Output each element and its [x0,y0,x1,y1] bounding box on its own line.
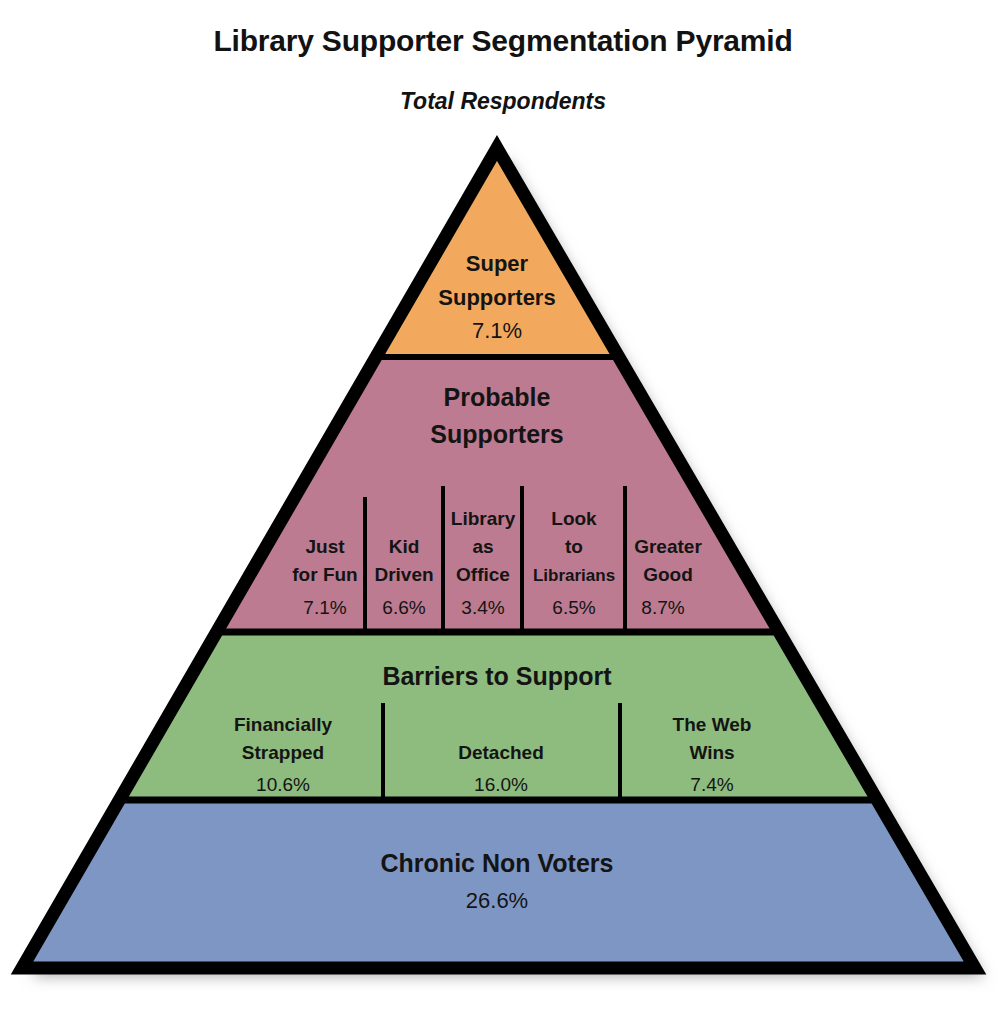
segment-kid-driven-label-line2: Driven [374,564,433,585]
segment-look-to-librarians-label-line2: to [565,536,583,557]
tier-super-supporters-value: 7.1% [472,318,522,343]
tier-barriers-to-support-label: Barriers to Support [382,662,612,690]
segment-library-as-office-value: 3.4% [461,597,504,618]
segment-financially-strapped-label-line2: Strapped [242,742,324,763]
tier-super-supporters-label-line2: Supporters [438,285,555,310]
segment-the-web-wins-value: 7.4% [690,774,733,795]
segment-kid-driven-value: 6.6% [382,597,425,618]
tier-super-supporters-label-line1: Super [466,251,529,276]
tier-probable-supporters-label-line2: Supporters [430,420,563,448]
segment-the-web-wins-label-line2: Wins [689,742,734,763]
segment-financially-strapped-value: 10.6% [256,774,310,795]
segment-greater-good-label-line1: Greater [634,536,702,557]
segment-greater-good-label-line2: Good [643,564,693,585]
segment-library-as-office-label-line2: as [472,536,493,557]
segmentation-pyramid: Super Supporters 7.1% Probable Supporter… [0,0,1006,1032]
segment-just-for-fun-value: 7.1% [303,597,346,618]
tier-chronic-non-voters-value: 26.6% [466,888,528,913]
segment-look-to-librarians-label-line1: Look [551,508,597,529]
segment-the-web-wins-label-line1: The Web [673,714,752,735]
segment-library-as-office-label-line1: Library [451,508,516,529]
segment-detached-value: 16.0% [474,774,528,795]
segment-library-as-office-label-line3: Office [456,564,510,585]
segment-just-for-fun-label-line2: for Fun [292,564,357,585]
tier-probable-supporters-label-line1: Probable [444,383,551,411]
segment-look-to-librarians-label-line3: Librarians [533,566,615,585]
segment-detached-label-line1: Detached [458,742,544,763]
segment-financially-strapped-label-line1: Financially [234,714,333,735]
segment-kid-driven-label-line1: Kid [389,536,420,557]
segment-greater-good-value: 8.7% [641,597,684,618]
segment-look-to-librarians-value: 6.5% [552,597,595,618]
tier-chronic-non-voters-label: Chronic Non Voters [381,849,614,877]
pyramid-chart-canvas: Library Supporter Segmentation Pyramid T… [0,0,1006,1032]
segment-just-for-fun-label-line1: Just [305,536,345,557]
